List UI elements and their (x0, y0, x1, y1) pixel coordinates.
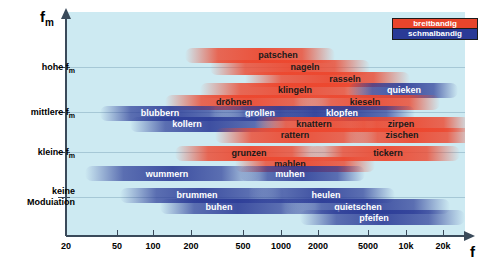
band-label: tickern (373, 148, 403, 158)
x-tick-label: 20k (435, 241, 450, 251)
chart-root: patschennagelnrasselnklingelnquiekendröh… (0, 0, 489, 267)
band-label: patschen (258, 50, 298, 60)
band-label: rattern (281, 130, 310, 140)
legend-item-schmalbandig[interactable]: schmalbandig (393, 29, 477, 39)
legend: breitbandig schmalbandig (392, 18, 478, 40)
legend-item-breitbandig[interactable]: breitbandig (393, 19, 477, 29)
x-tick-mark (281, 230, 282, 236)
band-label: buhen (206, 202, 233, 212)
band-label: quieken (387, 85, 421, 95)
x-tick-mark (318, 230, 319, 236)
y-tick-label: keineModuiation (27, 186, 75, 208)
x-tick-mark (368, 230, 369, 236)
x-tick-label: 1000 (271, 241, 291, 251)
x-tick-label: 20 (61, 241, 71, 251)
x-tick-mark (66, 230, 67, 236)
x-tick-label: 100 (145, 241, 160, 251)
x-tick-mark (243, 230, 244, 236)
x-tick-mark (117, 230, 118, 236)
band-label: pfeifen (359, 213, 389, 223)
y-axis-title: fm (40, 8, 54, 28)
y-axis-title-sub: m (45, 17, 54, 28)
band-label: wummern (146, 169, 189, 179)
x-tick-label: 500 (235, 241, 250, 251)
plot-area: patschennagelnrasselnklingelnquiekendröh… (66, 12, 465, 236)
band-label: kollern (172, 119, 202, 129)
x-axis-title: f (470, 243, 475, 260)
x-tick-label: 200 (183, 241, 198, 251)
x-tick-mark (191, 230, 192, 236)
x-axis-arrow-icon (464, 231, 475, 241)
band-label: zischen (385, 130, 418, 140)
y-tick-label: hohe fm (42, 62, 75, 76)
y-tick-label: kleine fm (38, 147, 75, 161)
band-label: klingeln (278, 85, 312, 95)
y-tick-label: mittlere fm (31, 107, 75, 121)
x-tick-label: 10k (398, 241, 413, 251)
y-axis-arrow-icon (61, 8, 71, 19)
x-tick-mark (153, 230, 154, 236)
x-tick-label: 50 (112, 241, 122, 251)
x-tick-mark (443, 230, 444, 236)
band-label: muhen (275, 169, 305, 179)
x-tick-label: 2000 (308, 241, 328, 251)
x-tick-label: 5000 (358, 241, 378, 251)
band-label: nageln (290, 62, 319, 72)
x-tick-mark (406, 230, 407, 236)
